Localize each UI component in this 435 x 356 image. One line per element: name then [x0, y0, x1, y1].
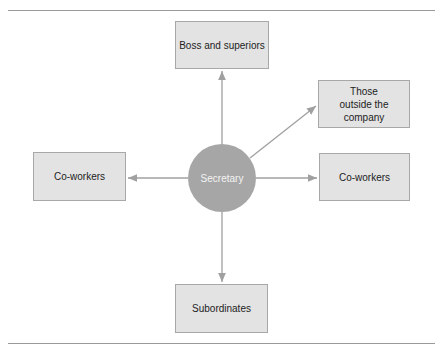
center-node-secretary: Secretary — [188, 144, 256, 212]
node-label: Co-workers — [54, 170, 105, 183]
node-label: Co-workers — [339, 171, 390, 184]
node-co-workers-right: Co-workers — [319, 153, 410, 201]
node-those-outside-company: Those outside the company — [318, 80, 410, 128]
node-label: Subordinates — [192, 302, 251, 315]
node-co-workers-left: Co-workers — [33, 152, 126, 201]
node-boss-and-superiors: Boss and superiors — [175, 21, 269, 69]
node-subordinates: Subordinates — [175, 284, 268, 333]
center-label: Secretary — [201, 173, 244, 184]
node-label: Boss and superiors — [179, 39, 265, 52]
node-label: Those outside the company — [333, 85, 395, 124]
